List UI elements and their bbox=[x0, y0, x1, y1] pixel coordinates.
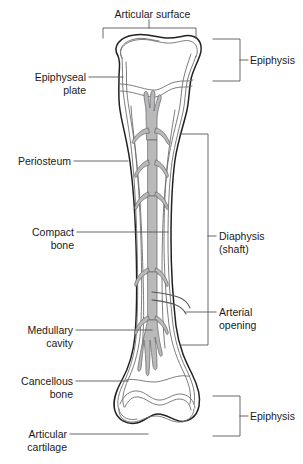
articular-cartilage-top bbox=[120, 39, 197, 58]
trabecula-branch-lower-left bbox=[135, 192, 149, 209]
arterial-opening-canal bbox=[152, 292, 190, 314]
label-epiphyseal-plate-line2: plate bbox=[0, 84, 86, 97]
epiphysis-bottom-bracket bbox=[213, 396, 240, 436]
label-epiphyseal-plate-line1: Epiphyseal bbox=[0, 71, 86, 84]
label-epiphysis-top: Epiphysis bbox=[250, 54, 295, 67]
articular-cartilage-bottom-inner bbox=[125, 397, 191, 410]
label-periosteum-line1: Periosteum bbox=[0, 155, 71, 168]
label-diaphysis-line2: (shaft) bbox=[219, 243, 265, 256]
label-diaphysis-line1: Diaphysis bbox=[219, 230, 265, 243]
label-cancellous-bone-line2: bone bbox=[0, 388, 73, 401]
trabecula-mid-column bbox=[148, 140, 157, 196]
periosteum-inner-left-line bbox=[120, 38, 159, 58]
bottom-epiphysis-group bbox=[119, 376, 195, 422]
label-epiphysis-bottom-line1: Epiphysis bbox=[250, 410, 295, 423]
label-articular-cartilage-line2: cartilage bbox=[0, 441, 67, 454]
label-epiphysis-bottom: Epiphysis bbox=[250, 410, 295, 423]
label-articular-cartilage: Articular cartilage bbox=[0, 428, 67, 454]
label-arterial-opening-line1: Arterial bbox=[219, 306, 256, 319]
label-articular-surface: Articular surface bbox=[105, 8, 200, 21]
distal-condyle-inner-line bbox=[119, 409, 194, 422]
label-medullary-cavity-line1: Medullary bbox=[0, 324, 73, 337]
label-cancellous-bone-line1: Cancellous bbox=[0, 375, 73, 388]
label-articular-cartilage-line1: Articular bbox=[0, 428, 67, 441]
annotation-lines bbox=[70, 20, 248, 436]
label-compact-bone-line1: Compact bbox=[0, 226, 74, 239]
trabecula-lower-column bbox=[148, 272, 157, 320]
label-periosteum: Periosteum bbox=[0, 155, 71, 168]
label-epiphyseal-plate: Epiphyseal plate bbox=[0, 71, 86, 97]
label-arterial-opening-line2: opening bbox=[219, 319, 256, 332]
long-bone-diagram: Articular surface Epiphysis Epiphyseal p… bbox=[0, 0, 303, 464]
diaphysis-bracket bbox=[180, 134, 208, 345]
trabecula-shaft-column bbox=[148, 196, 157, 272]
label-epiphysis-top-line1: Epiphysis bbox=[250, 54, 295, 67]
distal-epiphyseal-line bbox=[126, 376, 190, 382]
label-medullary-cavity: Medullary cavity bbox=[0, 324, 73, 350]
label-arterial-opening: Arterial opening bbox=[219, 306, 256, 332]
label-articular-surface-line1: Articular surface bbox=[105, 8, 200, 21]
label-cancellous-bone: Cancellous bone bbox=[0, 375, 73, 401]
epiphysis-top-bracket bbox=[213, 39, 240, 81]
label-medullary-cavity-line2: cavity bbox=[0, 337, 73, 350]
label-compact-bone-line2: bone bbox=[0, 239, 74, 252]
trabecula-distal-spray bbox=[138, 320, 162, 376]
label-compact-bone: Compact bone bbox=[0, 226, 74, 252]
label-diaphysis: Diaphysis (shaft) bbox=[219, 230, 265, 256]
